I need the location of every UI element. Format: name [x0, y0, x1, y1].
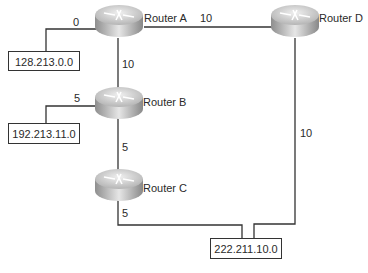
link-c-net3	[118, 200, 242, 238]
link-d-net3	[254, 38, 295, 238]
cost-c-net3: 5	[122, 207, 128, 219]
link-b-net2	[46, 106, 96, 123]
cost-d-net3: 10	[300, 127, 312, 139]
router-b-icon[interactable]	[94, 85, 144, 121]
router-d-label: Router D	[319, 12, 363, 24]
cost-a-b: 10	[122, 58, 134, 70]
cost-b-net2: 5	[74, 92, 80, 104]
router-c-label: Router C	[143, 182, 187, 194]
cost-a-d: 10	[200, 12, 212, 24]
cost-b-c: 5	[122, 141, 128, 153]
network-192-213-11-0[interactable]: 192.213.11.0	[8, 123, 80, 144]
router-a-label: Router A	[144, 12, 187, 24]
router-d-icon[interactable]	[270, 3, 320, 39]
router-a-icon[interactable]	[94, 3, 144, 39]
network-128-213-0-0[interactable]: 128.213.0.0	[8, 51, 80, 71]
router-c-icon[interactable]	[94, 167, 144, 203]
cost-a-net1: 0	[73, 16, 79, 28]
network-222-211-10-0[interactable]: 222.211.10.0	[210, 238, 282, 259]
link-a-net1	[46, 29, 96, 51]
router-b-label: Router B	[143, 96, 186, 108]
